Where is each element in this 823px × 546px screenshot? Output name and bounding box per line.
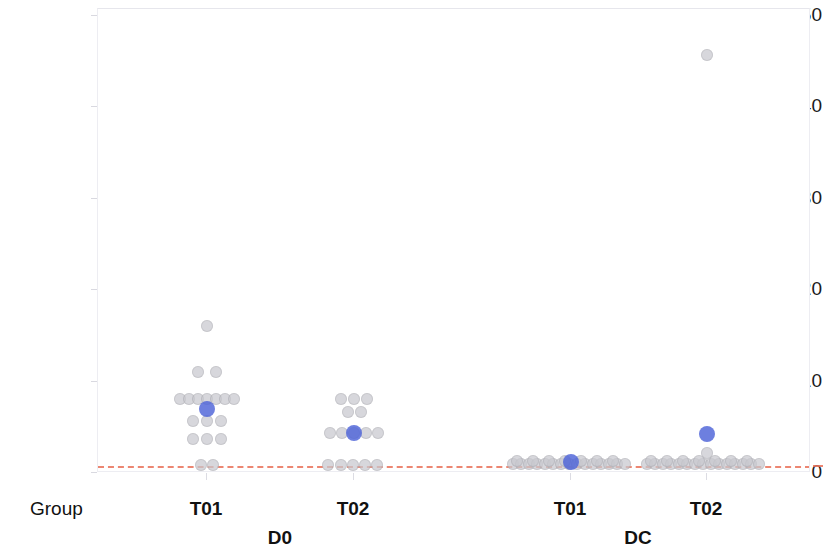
sample-data-point [543, 455, 555, 467]
sample-data-point [322, 459, 334, 471]
sample-data-point [591, 455, 603, 467]
sample-data-point [677, 455, 689, 467]
sample-data-point [619, 458, 631, 470]
sample-data-point [359, 459, 371, 471]
y-tick-mark [91, 472, 97, 473]
sample-data-point [645, 455, 657, 467]
x-tick-mark [706, 473, 707, 480]
sample-data-point [741, 455, 753, 467]
sample-data-point [207, 459, 219, 471]
sample-data-point [355, 406, 367, 418]
sample-data-point [371, 459, 383, 471]
sample-data-point [753, 458, 765, 470]
x-timepoint-label-d0: D0 [268, 527, 292, 546]
sample-data-point [187, 433, 199, 445]
x-tick-label-t02-3: T02 [690, 498, 723, 520]
sample-data-point [192, 366, 204, 378]
x-tick-mark [353, 473, 354, 480]
x-tick-label-t01-0: T01 [190, 498, 223, 520]
sample-data-point [347, 459, 359, 471]
x-tick-mark [570, 473, 571, 480]
sample-data-point [187, 415, 199, 427]
sample-data-point [701, 49, 713, 61]
sample-data-point [511, 455, 523, 467]
sample-data-point [215, 433, 227, 445]
sample-data-point [725, 455, 737, 467]
sample-data-point [195, 459, 207, 471]
sample-data-point [372, 427, 384, 439]
y-axis-title: Individual NA titers [0, 0, 32, 34]
sample-data-point [228, 393, 240, 405]
plot-area [98, 9, 809, 471]
x-tick-label-t02-1: T02 [337, 498, 370, 520]
sample-data-point [215, 415, 227, 427]
sample-data-point [342, 406, 354, 418]
sample-data-point [607, 455, 619, 467]
sample-data-point [527, 455, 539, 467]
sample-data-point [335, 459, 347, 471]
x-axis-row-caption: Group [30, 498, 83, 520]
sample-data-point [201, 433, 213, 445]
sample-data-point [361, 393, 373, 405]
sample-data-point [210, 366, 222, 378]
sample-data-point [661, 455, 673, 467]
plot-panel [97, 8, 810, 472]
x-tick-mark [206, 473, 207, 480]
sample-data-point [709, 455, 721, 467]
sample-data-point [693, 455, 705, 467]
group-mean-data-point [199, 401, 215, 417]
group-mean-data-point [699, 426, 715, 442]
sample-data-point [335, 393, 347, 405]
group-mean-data-point [346, 425, 362, 441]
x-tick-label-t01-2: T01 [554, 498, 587, 520]
reference-line-overflow [813, 465, 823, 467]
sample-data-point [324, 427, 336, 439]
group-mean-data-point [563, 454, 579, 470]
sample-data-point [348, 393, 360, 405]
x-timepoint-label-dc: DC [624, 527, 651, 546]
sample-data-point [201, 320, 213, 332]
